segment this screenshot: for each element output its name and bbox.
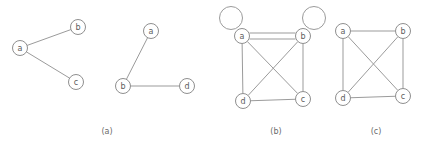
edge-a1-b1 xyxy=(27,30,71,46)
node-label-d: d xyxy=(340,94,345,103)
node-label-a2: a xyxy=(149,27,154,36)
node-label-a: a xyxy=(341,27,346,36)
node-label-b1: b xyxy=(75,23,80,32)
edge-a2-b2 xyxy=(126,38,147,80)
self-loop-edge-a xyxy=(220,7,243,30)
node-label-d2: d xyxy=(184,82,189,91)
node-label-b: b xyxy=(300,32,305,41)
node-label-d: d xyxy=(240,97,245,106)
graph-figure: abcabd(a)abcd(b)abcd(c) xyxy=(0,0,429,151)
panel-a: abcabd(a) xyxy=(13,20,195,136)
edge-d-c xyxy=(351,96,396,98)
graph-figure-canvas: abcabd(a)abcd(b)abcd(c) xyxy=(0,0,429,151)
node-label-c: c xyxy=(301,95,305,104)
self-loop-edge-b xyxy=(303,7,326,30)
node-label-a: a xyxy=(240,32,245,41)
edge-a-d xyxy=(242,44,243,94)
panel-b: abcd(b) xyxy=(220,7,326,136)
node-label-b2: b xyxy=(120,82,125,91)
node-label-b: b xyxy=(400,27,405,36)
caption-panel-c: (c) xyxy=(371,127,382,136)
node-label-c: c xyxy=(401,92,405,101)
panel-c: abcd(c) xyxy=(336,24,411,136)
edge-a1-c1 xyxy=(26,52,69,78)
caption-panel-a: (a) xyxy=(101,127,112,136)
caption-panel-b: (b) xyxy=(270,127,281,136)
edge-d-c xyxy=(251,99,296,101)
node-label-a1: a xyxy=(18,44,23,53)
node-label-c1: c xyxy=(74,78,78,87)
